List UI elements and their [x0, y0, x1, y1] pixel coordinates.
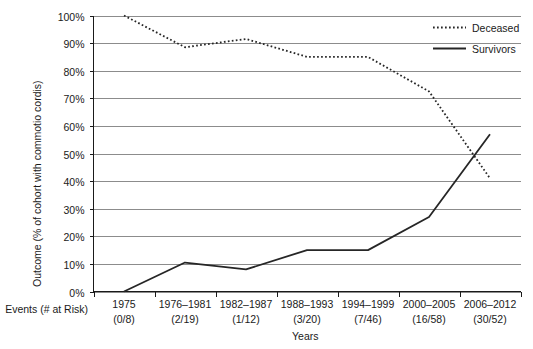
y-axis-tick-label: 10%: [63, 259, 84, 271]
legend-label-survivors: Survivors: [472, 43, 516, 55]
data-series-layer: [124, 16, 490, 292]
events-at-risk-value: (16/58): [412, 313, 445, 325]
y-axis-tick-label: 90%: [63, 38, 84, 50]
chart-figure: 0%10%20%30%40%50%60%70%80%90%100% 197519…: [0, 0, 533, 349]
events-at-risk-value: (30/52): [473, 313, 506, 325]
x-axis-category-label: 1988–1993: [281, 298, 334, 310]
y-axis-tick-label: 100%: [58, 11, 85, 23]
x-axis-category-labels: 19751976–19811982–19871988–19931994–1999…: [112, 298, 516, 310]
commotio-cordis-outcome-line-chart: 0%10%20%30%40%50%60%70%80%90%100% 197519…: [0, 0, 533, 349]
events-at-risk-value: (1/12): [232, 313, 259, 325]
y-axis-title: Outcome (% of cohort with commotio cordi…: [31, 80, 43, 287]
x-axis-category-label: 1976–1981: [159, 298, 212, 310]
events-at-risk-values: (0/8)(2/19)(1/12)(3/20)(7/46)(16/58)(30/…: [113, 313, 506, 325]
events-at-risk-value: (2/19): [171, 313, 198, 325]
x-axis-category-label: 1975: [112, 298, 136, 310]
x-axis-title: Years: [292, 330, 318, 342]
series-line-survivors: [124, 134, 490, 291]
x-axis-category-label: 1982–1987: [220, 298, 273, 310]
y-axis-tick-label: 60%: [63, 121, 84, 133]
y-axis-tick-label: 70%: [63, 93, 84, 105]
x-axis-title-text: Years: [292, 330, 318, 342]
gridlines: [94, 17, 521, 293]
y-axis-tick-label: 50%: [63, 149, 84, 161]
events-at-risk-label: Events (# at Risk): [5, 303, 88, 315]
series-line-deceased: [124, 16, 490, 179]
events-at-risk-value: (0/8): [113, 313, 135, 325]
events-at-risk-value: (7/46): [354, 313, 381, 325]
y-axis-tick-label: 80%: [63, 66, 84, 78]
y-axis-title-text: Outcome (% of cohort with commotio cordi…: [31, 80, 43, 287]
x-axis-category-label: 1994–1999: [342, 298, 395, 310]
y-axis-tick-label: 20%: [63, 231, 84, 243]
events-at-risk-value: (3/20): [293, 313, 320, 325]
legend: Deceased Survivors: [433, 22, 519, 55]
x-axis-category-label: 2006–2012: [464, 298, 517, 310]
x-axis-category-label: 2000–2005: [403, 298, 456, 310]
y-axis-tick-label: 30%: [63, 204, 84, 216]
y-axis-tick-label: 40%: [63, 176, 84, 188]
legend-label-deceased: Deceased: [472, 22, 519, 34]
y-axis-tick-label: 0%: [69, 287, 84, 299]
y-axis-tick-labels: 0%10%20%30%40%50%60%70%80%90%100%: [58, 11, 85, 299]
y-axis-tick-marks: [90, 17, 94, 293]
